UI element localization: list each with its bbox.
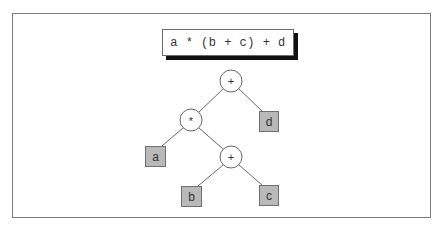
edge-times-to-inner-plus <box>199 128 223 149</box>
leaf-c-label: c <box>266 189 272 203</box>
node-inner-plus-label: + <box>228 151 234 163</box>
edge-root-to-times <box>199 89 223 112</box>
node-inner-plus: + <box>220 146 242 168</box>
node-times-label: * <box>189 115 194 127</box>
leaf-c: c <box>260 186 279 206</box>
leaf-a: a <box>146 147 166 167</box>
node-root-plus: + <box>220 70 242 92</box>
node-root-plus-label: + <box>228 75 234 87</box>
expression-tree: + * + d a b c <box>0 0 441 226</box>
leaf-d: d <box>260 112 279 132</box>
leaf-d-label: d <box>266 115 273 129</box>
edge-times-to-a <box>162 128 183 146</box>
edge-root-to-d <box>239 89 262 111</box>
node-times: * <box>180 109 202 131</box>
leaf-b: b <box>182 187 202 207</box>
leaf-b-label: b <box>188 190 195 204</box>
edge-inner-plus-to-c <box>239 165 262 185</box>
edge-inner-plus-to-b <box>198 165 223 186</box>
leaf-a-label: a <box>152 150 159 164</box>
tree-edges <box>162 89 262 186</box>
